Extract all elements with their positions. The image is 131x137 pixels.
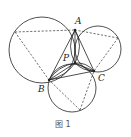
dashed-left-to-A bbox=[15, 30, 75, 32]
dashed-bottom-to-C bbox=[80, 71, 94, 110]
geometry-figure: A B C P 图 1 bbox=[0, 0, 131, 137]
dashed-bottom-to-B bbox=[49, 80, 80, 110]
right-circle bbox=[75, 26, 121, 72]
label-B: B bbox=[37, 84, 45, 94]
label-C: C bbox=[98, 73, 105, 83]
dashed-left-to-B bbox=[15, 32, 49, 80]
dashed-right-to-A bbox=[75, 30, 118, 38]
bottom-circle bbox=[48, 64, 96, 112]
point-C bbox=[93, 70, 95, 72]
label-A: A bbox=[74, 16, 82, 26]
point-P bbox=[74, 62, 76, 64]
side-AB bbox=[49, 30, 75, 80]
figure-caption: 图 1 bbox=[55, 120, 71, 129]
dashed-right-to-C bbox=[94, 38, 118, 71]
point-A bbox=[74, 29, 76, 31]
arc-AP-right bbox=[75, 30, 80, 63]
point-B bbox=[48, 79, 50, 81]
label-P: P bbox=[62, 53, 70, 63]
